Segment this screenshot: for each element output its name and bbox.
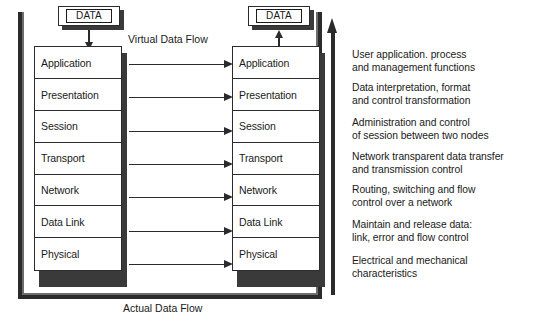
description-network: Routing, switching and flow control over…	[352, 183, 475, 209]
virtual-arrow-physical-head	[224, 260, 233, 268]
data-box-left-label: DATA	[66, 9, 112, 23]
virtual-arrow-transport-head	[224, 160, 233, 168]
virtual-arrow-data-link-head	[224, 227, 233, 235]
osi-model-diagram: DATA DATA Application Presentation Sessi…	[0, 0, 537, 325]
data-box-right: DATA	[248, 6, 310, 26]
virtual-arrow-session-head	[224, 127, 233, 135]
virtual-arrow-application	[129, 60, 233, 69]
layer-right-physical[interactable]: Physical	[232, 237, 320, 270]
layer-left-presentation[interactable]: Presentation	[34, 78, 122, 111]
layer-right-session[interactable]: Session	[232, 110, 320, 143]
virtual-arrow-session-shaft	[129, 131, 224, 133]
data-up-arrow-right-head	[275, 30, 283, 38]
data-box-left-frame: DATA	[58, 6, 120, 26]
description-session: Administration and control of session be…	[352, 116, 489, 142]
actual-data-flow-label: Actual Data Flow	[123, 303, 202, 314]
layer-right-application[interactable]: Application	[232, 46, 320, 79]
virtual-arrow-application-shaft	[129, 64, 224, 66]
osi-stack-right: Application Presentation Session Transpo…	[232, 48, 320, 271]
virtual-arrow-physical-shaft	[129, 264, 224, 266]
description-presentation: Data interpretation, format and control …	[352, 81, 470, 107]
virtual-arrow-network-shaft	[129, 197, 224, 199]
virtual-arrow-application-head	[224, 60, 233, 68]
virtual-arrow-data-link-shaft	[129, 231, 224, 233]
data-box-left: DATA	[58, 6, 120, 26]
layer-right-transport[interactable]: Transport	[232, 142, 320, 175]
virtual-arrow-network	[129, 193, 233, 202]
layer-left-data-link[interactable]: Data Link	[34, 205, 122, 238]
virtual-arrow-presentation-shaft	[129, 97, 224, 99]
layer-right-network[interactable]: Network	[232, 174, 320, 207]
layer-left-application[interactable]: Application	[34, 46, 122, 79]
virtual-arrow-presentation	[129, 93, 233, 102]
description-data-link: Maintain and release data: link, error a…	[352, 218, 472, 244]
virtual-arrow-session	[129, 127, 233, 136]
layer-left-network[interactable]: Network	[34, 174, 122, 207]
layer-left-session[interactable]: Session	[34, 110, 122, 143]
layer-order-up-arrow-shaft	[331, 31, 335, 295]
description-application: User application. process and management…	[352, 48, 475, 74]
virtual-arrow-data-link	[129, 227, 233, 236]
virtual-arrow-network-head	[224, 193, 233, 201]
virtual-arrow-presentation-head	[224, 93, 233, 101]
data-box-right-label: DATA	[256, 9, 302, 23]
description-transport: Network transparent data transfer and tr…	[352, 150, 504, 176]
description-physical: Electrical and mechanical characteristic…	[352, 254, 468, 280]
virtual-data-flow-label: Virtual Data Flow	[128, 34, 208, 45]
layer-left-physical[interactable]: Physical	[34, 237, 122, 270]
layer-right-presentation[interactable]: Presentation	[232, 78, 320, 111]
virtual-arrow-transport	[129, 160, 233, 169]
virtual-arrow-physical	[129, 260, 233, 269]
data-box-right-frame: DATA	[248, 6, 310, 26]
layer-right-data-link[interactable]: Data Link	[232, 205, 320, 238]
osi-stack-left: Application Presentation Session Transpo…	[34, 48, 122, 271]
virtual-arrow-transport-shaft	[129, 164, 224, 166]
layer-left-transport[interactable]: Transport	[34, 142, 122, 175]
